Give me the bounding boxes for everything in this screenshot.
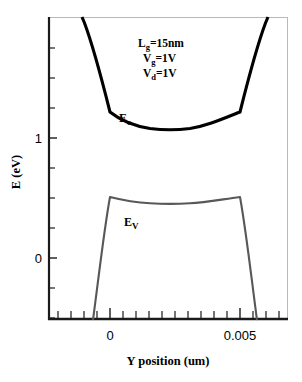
y-axis-title: E (eV) (9, 155, 23, 189)
chart-canvas: 1 0 0 0.005 Y position (um) E (eV) Ec EV… (0, 0, 302, 382)
curve-label-ev-base: E (124, 215, 132, 229)
annotation-lg-rest: =15nm (150, 37, 184, 49)
y-tick-label-1: 1 (35, 131, 42, 146)
curve-label-ec-base: E (119, 111, 127, 125)
x-axis-title: Y position (um) (127, 354, 210, 368)
band-diagram-figure: 1 0 0 0.005 Y position (um) E (eV) Ec EV… (0, 0, 302, 382)
annotation-vd-rest: =1V (156, 67, 177, 79)
annotation-vg-rest: =1V (156, 52, 177, 64)
curve-label-ec-sub: c (127, 117, 131, 127)
curve-label-ev-sub: V (132, 221, 139, 231)
x-tick-label-0005: 0.005 (224, 328, 257, 343)
x-tick-label-0: 0 (106, 328, 113, 343)
y-tick-label-0: 0 (35, 251, 42, 266)
